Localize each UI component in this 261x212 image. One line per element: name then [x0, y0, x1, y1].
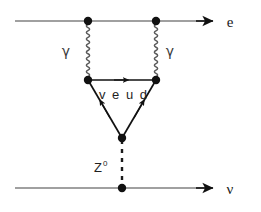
- feynman-diagram-svg: e ν γ γ v e u d Z 0: [0, 0, 261, 212]
- vertex-electron-left: [84, 17, 92, 25]
- photon-left-wavy-line: [86, 21, 89, 80]
- z-boson-superscript-label: 0: [103, 159, 108, 168]
- vertex-loop-right: [152, 76, 160, 84]
- photon-right-label: γ: [166, 43, 174, 59]
- vertex-loop-left: [84, 76, 92, 84]
- vertex-neutrino: [118, 184, 126, 192]
- loop-left-edge-arrow: [101, 102, 110, 118]
- z-boson-label: Z: [94, 160, 102, 175]
- loop-right-edge-arrow: [134, 102, 143, 118]
- photon-left-label: γ: [62, 43, 70, 59]
- loop-fermions-label: v e u d: [99, 87, 149, 102]
- vertex-electron-right: [152, 17, 160, 25]
- feynman-diagram-canvas: e ν γ γ v e u d Z 0: [0, 0, 261, 212]
- electron-out-label: e: [227, 14, 234, 30]
- vertex-loop-apex: [118, 134, 126, 142]
- photon-right-wavy-line: [154, 21, 157, 80]
- neutrino-out-label: ν: [227, 181, 234, 197]
